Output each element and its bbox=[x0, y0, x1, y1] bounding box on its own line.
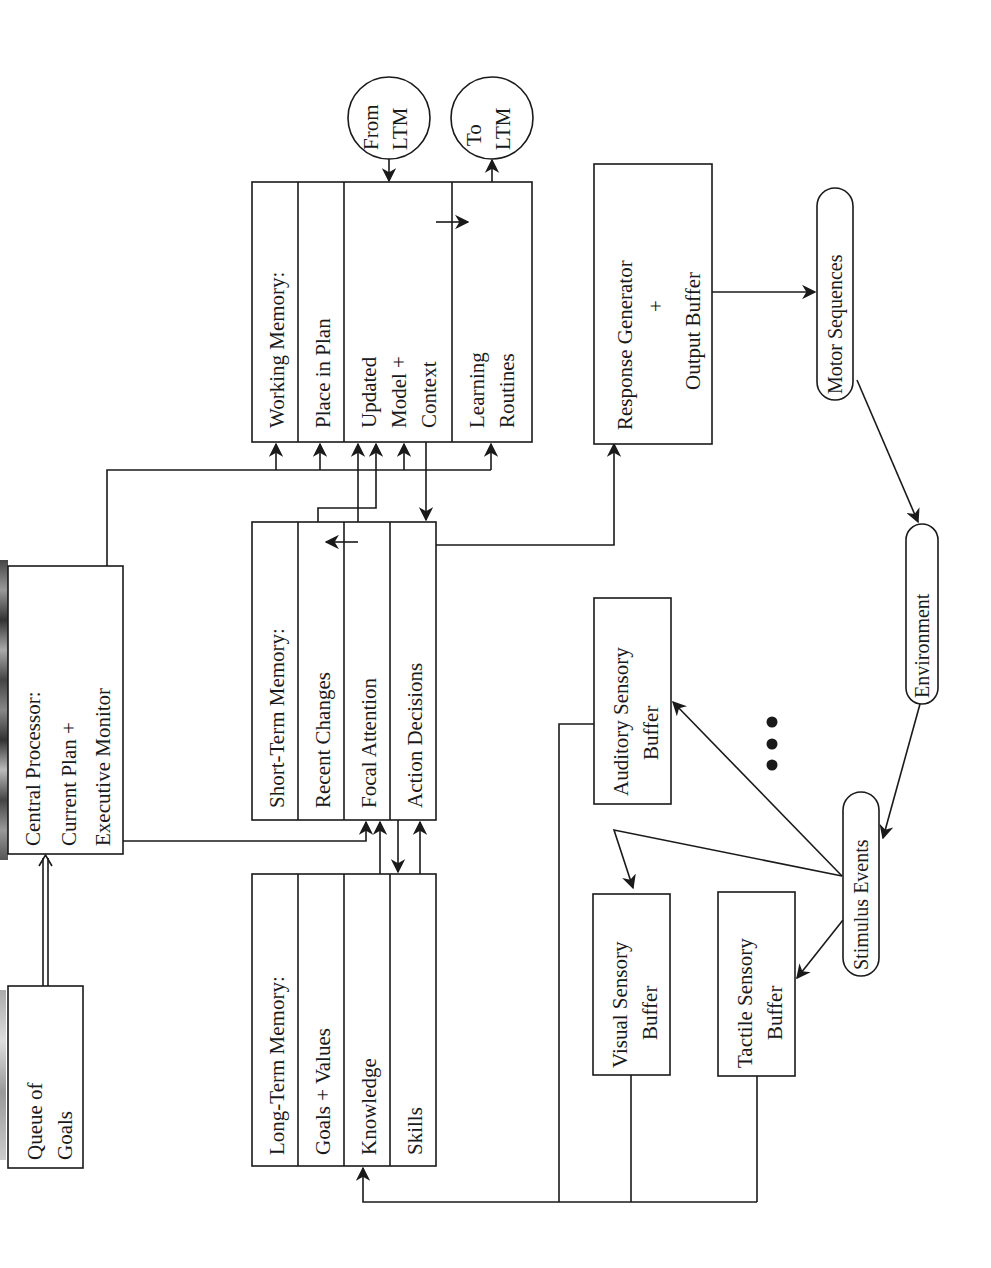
tactile-sensory-buffer-node: Tactile Sensory Buffer bbox=[718, 892, 795, 1076]
tactile-buffer-line-2: Buffer bbox=[763, 986, 787, 1040]
auditory-sensory-buffer-node: Auditory Sensory Buffer bbox=[594, 598, 671, 804]
ellipsis-more-buffers bbox=[767, 717, 778, 771]
response-generator-line-1: Response Generator bbox=[613, 260, 637, 430]
queue-to-central-arrow bbox=[39, 855, 52, 986]
wm-row-place-in-plan: Place in Plan bbox=[311, 318, 335, 428]
response-generator-plus: + bbox=[644, 300, 668, 312]
motor-to-environment-arrow bbox=[857, 380, 918, 522]
action-to-response-arrow bbox=[436, 444, 614, 545]
auditory-buffer-line-2: Buffer bbox=[639, 706, 663, 760]
short-term-memory-node: Short-Term Memory: Recent Changes Focal … bbox=[252, 522, 436, 820]
wm-row-updated: Updated bbox=[357, 356, 381, 428]
motor-sequences-label: Motor Sequences bbox=[824, 254, 847, 394]
queue-of-goals-label-2: Goals bbox=[53, 1111, 77, 1160]
ltm-stm-links bbox=[380, 820, 420, 874]
cognitive-architecture-diagram: Queue of Goals Central Processor: Curren… bbox=[0, 0, 991, 1268]
central-processor-line-2: Current Plan + bbox=[57, 722, 81, 846]
queue-of-goals-node: Queue of Goals bbox=[8, 986, 83, 1168]
to-ltm-label-1: To bbox=[462, 124, 486, 146]
motor-sequences-node: Motor Sequences bbox=[817, 188, 853, 400]
from-ltm-label-1: From bbox=[359, 104, 383, 150]
queue-of-goals-label-1: Queue of bbox=[23, 1082, 47, 1160]
ltm-row-goals-values: Goals + Values bbox=[311, 1028, 335, 1155]
stm-row-action-decisions: Action Decisions bbox=[403, 663, 427, 808]
scan-edge-artifact bbox=[0, 990, 6, 1160]
auditory-buffer-line-1: Auditory Sensory bbox=[609, 647, 633, 796]
tactile-buffer-line-1: Tactile Sensory bbox=[733, 938, 757, 1068]
wm-row-routines: Routines bbox=[495, 353, 519, 428]
stimulus-events-node: Stimulus Events bbox=[843, 792, 879, 976]
wm-row-model: Model + bbox=[387, 356, 411, 428]
ltm-row-knowledge: Knowledge bbox=[357, 1058, 381, 1155]
to-ltm-label-2: LTM bbox=[491, 107, 515, 150]
central-processor-title: Central Processor: bbox=[21, 691, 45, 846]
visual-buffer-line-1: Visual Sensory bbox=[608, 941, 632, 1068]
environment-node: Environment bbox=[906, 524, 938, 704]
stm-to-wm-links bbox=[318, 444, 376, 522]
wm-row-context: Context bbox=[417, 361, 441, 428]
scan-edge-artifact bbox=[0, 560, 8, 860]
to-ltm-node: To LTM bbox=[451, 77, 533, 182]
environment-label: Environment bbox=[911, 593, 933, 698]
stm-title: Short-Term Memory: bbox=[265, 628, 289, 808]
from-ltm-node: From LTM bbox=[348, 77, 430, 181]
response-generator-node: Response Generator + Output Buffer bbox=[594, 164, 712, 444]
ltm-title: Long-Term Memory: bbox=[265, 976, 289, 1155]
stm-row-focal-attention: Focal Attention bbox=[357, 677, 381, 808]
visual-buffer-line-2: Buffer bbox=[638, 986, 662, 1040]
environment-to-stimulus-arrow bbox=[883, 704, 920, 838]
response-generator-line-3: Output Buffer bbox=[681, 272, 705, 390]
central-to-focal-attention-arrow bbox=[123, 822, 366, 841]
stimulus-events-label: Stimulus Events bbox=[850, 839, 872, 970]
ltm-row-skills: Skills bbox=[403, 1107, 427, 1155]
visual-sensory-buffer-node: Visual Sensory Buffer bbox=[593, 894, 670, 1075]
long-term-memory-node: Long-Term Memory: Goals + Values Knowled… bbox=[252, 874, 436, 1166]
working-memory-node: Working Memory: Place in Plan Updated Mo… bbox=[252, 182, 532, 442]
central-processor-node: Central Processor: Current Plan + Execut… bbox=[8, 566, 123, 854]
from-ltm-label-2: LTM bbox=[388, 107, 412, 150]
stm-row-recent-changes: Recent Changes bbox=[311, 672, 335, 808]
wm-title: Working Memory: bbox=[265, 272, 289, 428]
central-processor-line-3: Executive Monitor bbox=[91, 688, 115, 846]
wm-row-learning: Learning bbox=[465, 352, 489, 428]
